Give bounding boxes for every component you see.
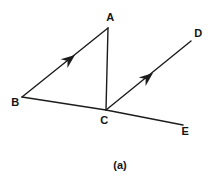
vertex-label-D: D	[194, 28, 202, 39]
vertex-label-C: C	[100, 115, 108, 126]
line-AC	[106, 28, 108, 110]
line-BA	[22, 28, 108, 97]
vertex-label-A: A	[106, 12, 114, 23]
diagram-canvas	[0, 0, 210, 183]
figure-caption: (a)	[113, 160, 126, 171]
geometry-figure: A B C D E (a)	[0, 0, 210, 183]
vertex-label-B: B	[11, 97, 19, 108]
vertex-label-E: E	[181, 126, 188, 137]
